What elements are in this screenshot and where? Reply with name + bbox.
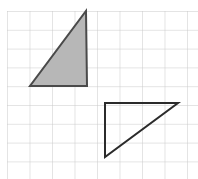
geometry-figure	[0, 0, 198, 179]
grid-lines	[7, 11, 198, 179]
screenshot-root: ONUS ▶	[0, 0, 198, 179]
